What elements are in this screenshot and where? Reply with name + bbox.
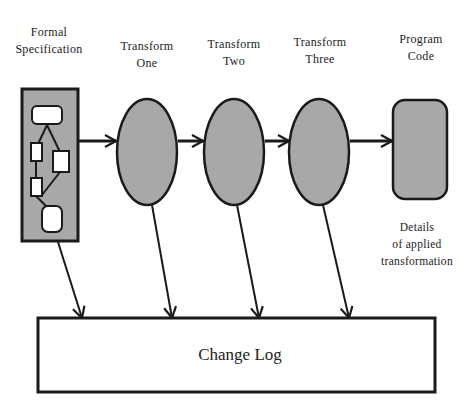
label-line: Transform [285,34,355,51]
change-log-label: Change Log [190,345,290,365]
transform-three-node [289,99,349,205]
label-line: transformation [368,253,466,270]
program-code-node [393,100,447,199]
label-line: Transform [199,36,269,53]
transform-two-label: Transform Two [199,36,269,70]
program-code-label: Program Code [390,31,452,65]
label-line: Three [285,51,355,68]
label-line: One [112,55,182,72]
transform-one-node [117,99,177,205]
transform-one-label: Transform One [112,38,182,72]
label-line: Program [390,31,452,48]
log-arrows [58,205,349,318]
label-line: Code [390,48,452,65]
label-line: Details [368,219,466,236]
transform-two-node [204,99,264,205]
details-annotation: Details of applied transformation [368,219,466,270]
transform-three-label: Transform Three [285,34,355,68]
label-line: Formal [6,24,92,41]
label-line: Two [199,53,269,70]
formal-specification-node [22,89,78,241]
label-line: of applied [368,236,466,253]
label-line: Specification [6,41,92,58]
formal-specification-label: Formal Specification [6,24,92,58]
label-line: Transform [112,38,182,55]
